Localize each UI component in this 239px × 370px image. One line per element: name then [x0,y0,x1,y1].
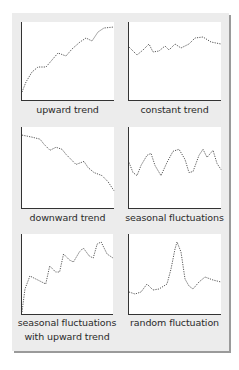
label-constant-trend: constant trend [121,103,228,117]
label-seasonal-fluctuations: seasonal fluctuations [121,211,228,225]
chart-constant-trend [128,22,221,101]
label-seasonal-upward-line2: with upward trend [12,330,122,344]
trend-line [22,127,114,208]
chart-random-fluctuation [128,234,221,315]
chart-seasonal-fluctuations [128,127,221,209]
label-random-fluctuation: random fluctuation [121,316,228,330]
trend-line [22,234,113,314]
trend-line [129,234,221,314]
chart-seasonal-upward [21,234,113,315]
trend-line [129,127,221,208]
chart-upward-trend [21,22,114,101]
label-upward-trend: upward trend [14,103,121,117]
label-seasonal-upward-line1: seasonal fluctuations [12,316,122,330]
label-downward-trend: downward trend [14,211,121,225]
chart-downward-trend [21,127,114,209]
trend-line [129,22,221,100]
trend-line [22,22,114,100]
